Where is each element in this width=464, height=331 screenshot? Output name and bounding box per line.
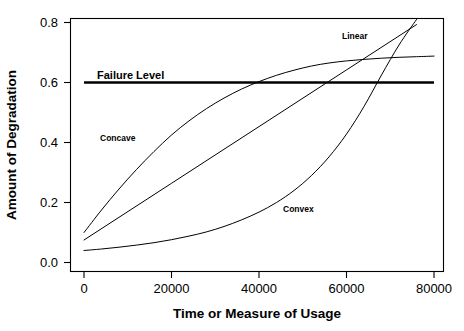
annotation-convex: Convex <box>283 204 314 214</box>
chart-figure: 0.0 0.2 0.4 0.6 0.8 0 20000 40000 60000 … <box>0 0 464 331</box>
y-tick-label-1: 0.2 <box>40 195 58 210</box>
y-tick-label-2: 0.4 <box>40 135 58 150</box>
figure-background <box>0 0 464 331</box>
y-tick-label-4: 0.8 <box>40 15 58 30</box>
chart-canvas: 0.0 0.2 0.4 0.6 0.8 0 20000 40000 60000 … <box>0 0 464 331</box>
x-tick-label-1: 20000 <box>153 281 189 296</box>
x-tick-label-0: 0 <box>80 281 87 296</box>
x-tick-label-2: 40000 <box>241 281 277 296</box>
x-tick-label-3: 60000 <box>328 281 364 296</box>
x-tick-label-4: 80000 <box>416 281 452 296</box>
y-axis-title: Amount of Degradation <box>4 70 19 220</box>
annotation-failure-level: Failure Level <box>97 69 164 81</box>
x-axis-title: Time or Measure of Usage <box>173 306 341 321</box>
y-tick-label-0: 0.0 <box>40 255 58 270</box>
annotation-concave: Concave <box>100 133 136 143</box>
y-tick-label-3: 0.6 <box>40 75 58 90</box>
annotation-linear: Linear <box>342 31 368 41</box>
